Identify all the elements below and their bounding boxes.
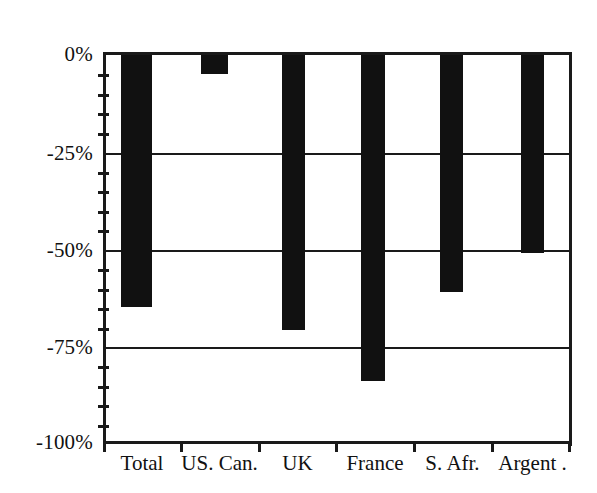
zero-baseline <box>103 52 572 55</box>
right-axis-line <box>569 52 572 446</box>
y-minor-tick <box>98 113 109 116</box>
x-axis-label-france: France <box>336 451 414 475</box>
y-minor-tick <box>98 269 109 272</box>
y-minor-tick <box>98 94 109 97</box>
bar-uk[interactable] <box>282 55 305 330</box>
y-axis-label-25: -25% <box>0 143 93 164</box>
plot-area <box>103 55 569 443</box>
bar-chart-figure: 0% -25% -50% -75% -100% <box>0 0 597 493</box>
x-axis-label-argent: Argent . <box>491 451 574 475</box>
y-minor-tick <box>98 230 109 233</box>
bar-total[interactable] <box>121 55 152 307</box>
y-axis-label-0: 0% <box>0 44 93 65</box>
y-minor-tick <box>98 308 109 311</box>
x-axis-label-total: Total <box>104 451 180 475</box>
gridline-minus-25 <box>103 153 569 155</box>
y-axis-label-group: 0% -25% -50% -75% -100% <box>0 0 95 493</box>
bar-argent[interactable] <box>521 55 544 253</box>
y-minor-tick <box>98 366 109 369</box>
bar-france[interactable] <box>361 55 385 381</box>
x-axis-label-uk: UK <box>259 451 336 475</box>
bar-us-can[interactable] <box>201 55 228 74</box>
y-minor-tick <box>98 211 109 214</box>
y-minor-tick <box>98 191 109 194</box>
y-minor-tick <box>98 133 109 136</box>
y-minor-tick <box>98 405 109 408</box>
y-minor-tick <box>98 328 109 331</box>
y-axis-label-50: -50% <box>0 240 93 261</box>
y-minor-tick <box>98 74 109 77</box>
x-axis-label-us-can: US. Can. <box>181 451 258 475</box>
y-minor-tick <box>98 425 109 428</box>
x-axis-label-s-afr: S. Afr. <box>414 451 491 475</box>
y-minor-tick <box>98 386 109 389</box>
bar-s-afr[interactable] <box>440 55 463 292</box>
x-axis-label-group: Total US. Can. UK France S. Afr. Argent … <box>0 451 597 485</box>
y-minor-tick <box>98 172 109 175</box>
y-axis-label-75: -75% <box>0 337 93 358</box>
gridline-minus-75 <box>103 347 569 349</box>
gridline-minus-50 <box>103 250 569 252</box>
y-axis-label-100: -100% <box>0 432 93 453</box>
y-minor-tick <box>98 289 109 292</box>
